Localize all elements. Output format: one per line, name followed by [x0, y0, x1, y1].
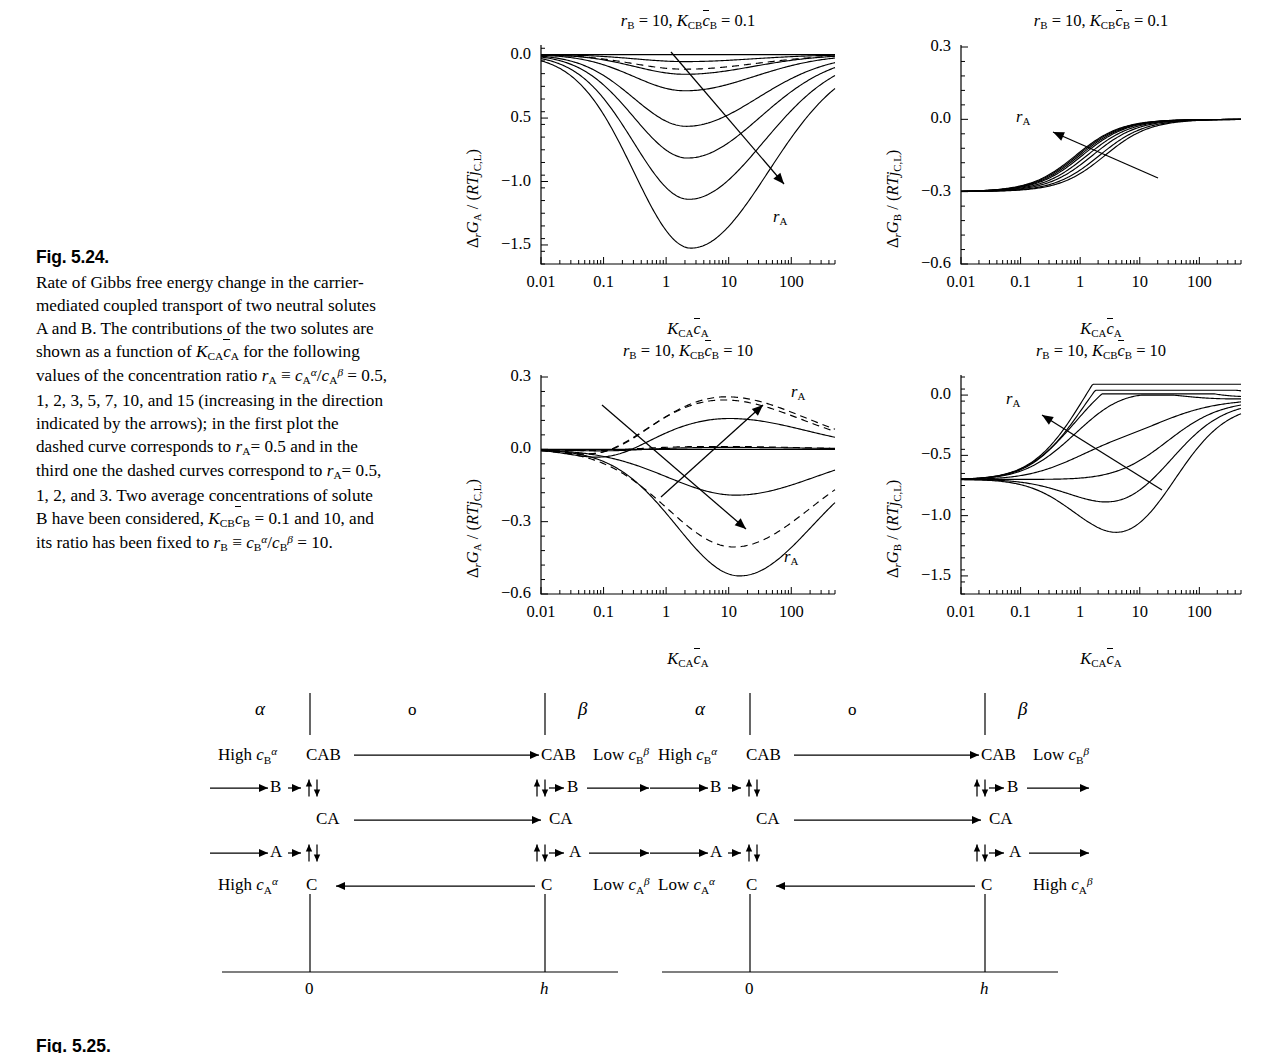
plot-title: rB = 10, KCBcB = 0.1	[901, 11, 1267, 31]
y-tick-label: 0.3	[469, 366, 531, 386]
figure-caption: Fig. 5.24. Rate of Gibbs free energy cha…	[36, 246, 388, 556]
plot-y-axis-label: ΔrGA / (RTjC,L)	[463, 149, 483, 248]
y-tick-label: 0.0	[889, 108, 951, 128]
y-tick-label: −0.6	[469, 583, 531, 603]
arrow-label-ra-upper: rA	[791, 382, 805, 402]
plot-x-axis-label: KCAcA	[541, 649, 835, 669]
scheme-right-top-concentration: Low cBβ	[1033, 745, 1089, 766]
scheme-species-c-left: C	[746, 875, 757, 895]
x-tick-label: 100	[1159, 272, 1239, 292]
scheme-axis-origin-label: 0	[305, 979, 314, 999]
scheme-species-cab-right: CAB	[981, 745, 1016, 765]
scheme-left-bottom-concentration: Low cAα	[658, 875, 715, 896]
y-tick-label: −0.6	[889, 253, 951, 273]
scheme-axis-h-label: h	[540, 979, 549, 999]
scheme-species-ca-left: CA	[756, 809, 780, 829]
scheme-species-b-left: B	[270, 777, 281, 797]
scheme-right-top-concentration: Low cBβ	[593, 745, 649, 766]
scheme-phase-membrane-label: o	[408, 700, 417, 720]
plot-x-axis-label: KCAcA	[961, 649, 1241, 669]
scheme-right-bottom-concentration: Low cAβ	[593, 875, 650, 896]
arrow-label-ra-lower: rA	[784, 547, 798, 567]
scheme-species-ca-right: CA	[989, 809, 1013, 829]
y-tick-label: −0.5	[889, 444, 951, 464]
plot-y-axis-label: ΔrGB / (RTjC,L)	[883, 479, 903, 577]
scheme-phase-membrane-label: o	[848, 700, 857, 720]
scheme-left-top-concentration: High cBα	[218, 745, 277, 766]
scheme-species-b-right: B	[567, 777, 578, 797]
scheme-axis-h-label: h	[980, 979, 989, 999]
scheme-species-cab-right: CAB	[541, 745, 576, 765]
scheme-species-a-left: A	[710, 842, 722, 862]
scheme-right-bottom-concentration: High cAβ	[1033, 875, 1093, 896]
plot-x-axis-label: KCAcA	[541, 319, 835, 339]
plot-title: rB = 10, KCBcB = 10	[481, 341, 895, 361]
y-tick-label: 0.0	[889, 384, 951, 404]
x-tick-label: 100	[1159, 602, 1239, 622]
scheme-species-b-right: B	[1007, 777, 1018, 797]
scheme-species-c-right: C	[981, 875, 992, 895]
arrow-label-ra: rA	[1006, 389, 1020, 409]
scheme-species-c-right: C	[541, 875, 552, 895]
plot-x-axis-label: KCAcA	[961, 319, 1241, 339]
scheme-phase-beta-label: β	[578, 698, 587, 720]
scheme-left-bottom-concentration: High cAα	[218, 875, 278, 896]
scheme-phase-alpha-label: α	[255, 698, 265, 720]
next-figure-number: Fig. 5.25.	[36, 1036, 111, 1053]
arrow-label-ra: rA	[1016, 107, 1030, 127]
scheme-species-ca-right: CA	[549, 809, 573, 829]
scheme-species-a-right: A	[569, 842, 581, 862]
y-tick-label: 0.0	[469, 438, 531, 458]
y-tick-label: −0.3	[889, 181, 951, 201]
y-tick-label: −0.3	[469, 511, 531, 531]
arrow-label-ra: rA	[773, 207, 787, 227]
y-tick-label: −1.0	[469, 171, 531, 191]
scheme-species-a-left: A	[270, 842, 282, 862]
scheme-species-cab-left: CAB	[306, 745, 341, 765]
scheme-species-cab-left: CAB	[746, 745, 781, 765]
y-tick-label: −1.5	[889, 565, 951, 585]
scheme-species-ca-left: CA	[316, 809, 340, 829]
scheme-phase-alpha-label: α	[695, 698, 705, 720]
y-tick-label: 0.5	[469, 107, 531, 127]
scheme-species-c-left: C	[306, 875, 317, 895]
figure-caption-text: Rate of Gibbs free energy change in the …	[36, 273, 387, 553]
scheme-left-top-concentration: High cBα	[658, 745, 717, 766]
plot-title: rB = 10, KCBcB = 10	[901, 341, 1267, 361]
x-tick-label: 100	[751, 272, 831, 292]
y-tick-label: −1.5	[469, 234, 531, 254]
scheme-species-a-right: A	[1009, 842, 1021, 862]
figure-number: Fig. 5.24.	[36, 246, 388, 270]
y-tick-label: −1.0	[889, 505, 951, 525]
scheme-axis-origin-label: 0	[745, 979, 754, 999]
x-tick-label: 100	[751, 602, 831, 622]
scheme-phase-beta-label: β	[1018, 698, 1027, 720]
y-tick-label: 0.0	[469, 44, 531, 64]
scheme-species-b-left: B	[710, 777, 721, 797]
y-tick-label: 0.3	[889, 36, 951, 56]
plot-title: rB = 10, KCBcB = 0.1	[481, 11, 895, 31]
